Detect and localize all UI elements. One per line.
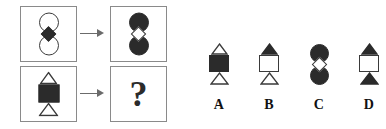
question-mark: ?	[130, 76, 148, 112]
answer-options: A B C	[190, 0, 386, 129]
option-c-label: C	[314, 97, 324, 113]
answer-option-b[interactable]: B	[244, 36, 294, 113]
panel-bottom-right-unknown: ?	[110, 66, 167, 122]
answer-option-a[interactable]: A	[194, 36, 244, 113]
arrow-right-icon	[80, 87, 106, 101]
option-b-figure	[259, 36, 279, 92]
shape-square-light	[259, 55, 279, 72]
arrow-right-icon	[80, 27, 106, 41]
arrow-head	[97, 89, 104, 97]
option-d-label: D	[364, 97, 374, 113]
shape-triangle-up-light	[260, 72, 279, 85]
shape-triangle-up-dark	[261, 43, 278, 55]
panel-bottom-left	[20, 66, 77, 122]
shape-square-light	[359, 55, 379, 72]
shape-square-dark	[209, 55, 229, 72]
shape-stack-bottom-left	[38, 72, 59, 117]
option-b-label: B	[264, 97, 274, 113]
arrow-head	[97, 29, 104, 37]
shape-triangle-up-light	[210, 72, 229, 85]
answer-option-c[interactable]: C	[294, 36, 344, 113]
option-d-figure	[359, 36, 379, 92]
shape-stack-top-right	[129, 13, 149, 56]
shape-stack-top-left	[39, 13, 59, 56]
shape-stack-bottom-right: ?	[130, 76, 148, 112]
shape-triangle-up-dark	[360, 72, 379, 85]
option-a-label: A	[214, 97, 224, 113]
shape-triangle-up-light	[39, 103, 59, 117]
option-c-figure	[310, 36, 329, 92]
panel-top-right	[110, 6, 167, 62]
shape-triangle-up-light	[211, 43, 228, 55]
shape-triangle-up-dark	[361, 43, 378, 55]
shape-triangle-up-light	[40, 72, 58, 85]
shape-square-dark	[38, 85, 59, 103]
panel-top-left	[20, 6, 77, 62]
problem-matrix: ?	[0, 0, 190, 129]
option-a-figure	[209, 36, 229, 92]
answer-option-d[interactable]: D	[344, 36, 386, 113]
